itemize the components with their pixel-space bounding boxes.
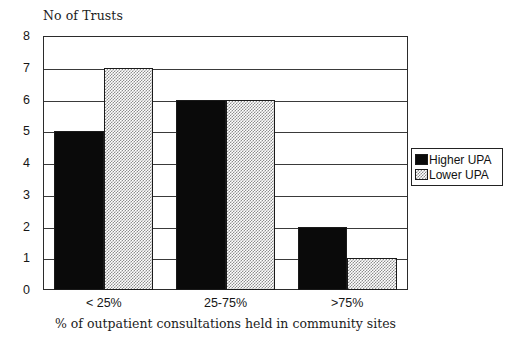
y-axis-title: No of Trusts: [43, 8, 123, 23]
plot-area: [43, 36, 408, 290]
y-tick-label: 5: [23, 125, 30, 138]
bar-chart-figure: No of Trusts 012345678 < 25%25-75%>75% %…: [0, 0, 521, 340]
gridline: [44, 69, 407, 70]
legend-entry: Lower UPA: [415, 167, 500, 182]
x-tick-label: < 25%: [86, 296, 122, 310]
y-tick-label: 3: [23, 189, 30, 202]
y-tick-label: 6: [23, 93, 30, 106]
checkerboard-gray-swatch: [415, 169, 428, 180]
x-tick-label: >75%: [331, 296, 363, 310]
legend: Higher UPALower UPA: [411, 148, 503, 186]
y-tick-label: 8: [23, 30, 30, 43]
gridline: [44, 101, 407, 102]
gridline: [44, 228, 407, 229]
legend-label: Lower UPA: [429, 169, 489, 181]
gridline: [44, 164, 407, 165]
y-axis-tick-labels: 012345678: [0, 36, 38, 290]
y-tick-label: 1: [23, 252, 30, 265]
gridline: [44, 132, 407, 133]
gridline: [44, 196, 407, 197]
gridline: [44, 259, 407, 260]
y-tick-label: 2: [23, 220, 30, 233]
legend-entry: Higher UPA: [415, 152, 500, 167]
y-tick-label: 4: [23, 157, 30, 170]
legend-label: Higher UPA: [429, 154, 491, 166]
x-axis-title: % of outpatient consultations held in co…: [43, 316, 408, 331]
y-tick-label: 0: [23, 284, 30, 297]
x-tick-label: 25-75%: [204, 296, 247, 310]
x-axis-tick-labels: < 25%25-75%>75%: [43, 296, 408, 316]
y-tick-label: 7: [23, 62, 30, 75]
solid-black-swatch: [415, 154, 428, 165]
horizontal-gridlines: [44, 37, 407, 289]
